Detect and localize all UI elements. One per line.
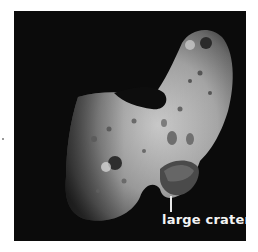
stray-mark — [2, 138, 4, 140]
crater — [198, 71, 203, 76]
label-pointer-line — [170, 196, 172, 212]
crater — [122, 179, 127, 184]
crater — [200, 37, 212, 49]
crater-label: large crater — [162, 212, 246, 227]
asteroid-illustration — [14, 11, 246, 241]
crater — [208, 91, 212, 95]
crater — [142, 149, 146, 153]
crater — [107, 127, 112, 132]
asteroid-photo: large crater — [14, 11, 246, 241]
crater — [91, 136, 97, 142]
crater — [188, 79, 192, 83]
crater — [101, 162, 111, 172]
crater — [132, 119, 137, 124]
crater — [167, 131, 177, 145]
crater — [161, 119, 167, 127]
crater — [178, 107, 183, 112]
crater — [96, 189, 100, 193]
crater — [186, 133, 194, 145]
crater — [185, 40, 195, 50]
